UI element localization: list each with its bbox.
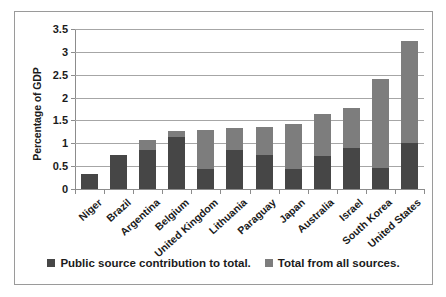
y-tick-label: 0.5	[53, 160, 68, 172]
legend-label: Total from all sources.	[278, 257, 400, 269]
y-axis-title: Percentage of GDP	[31, 54, 43, 174]
bar-group[interactable]	[197, 29, 214, 189]
bar-group[interactable]	[285, 29, 302, 189]
y-tick-mark	[71, 143, 75, 144]
plot-area: 00.511.522.533.5	[75, 29, 424, 189]
bar-segment-public[interactable]	[343, 148, 360, 189]
bar-group[interactable]	[372, 29, 389, 189]
y-tick-label: 0	[62, 183, 68, 195]
x-tick-mark	[250, 189, 251, 194]
bar-group[interactable]	[139, 29, 156, 189]
bar-group[interactable]	[314, 29, 331, 189]
bar-group[interactable]	[226, 29, 243, 189]
y-tick-mark	[71, 120, 75, 121]
bar-segment-public[interactable]	[110, 155, 127, 189]
bar-segment-public[interactable]	[226, 150, 243, 189]
y-tick-mark	[71, 52, 75, 53]
bar-segment-public[interactable]	[314, 156, 331, 189]
x-tick-mark	[308, 189, 309, 194]
x-tick-mark	[191, 189, 192, 194]
bar-segment-public[interactable]	[81, 174, 98, 189]
bar-group[interactable]	[401, 29, 418, 189]
y-tick-label: 3	[62, 46, 68, 58]
x-tick-mark	[395, 189, 396, 194]
bar-segment-public[interactable]	[401, 143, 418, 189]
legend-swatch-icon	[265, 259, 273, 267]
x-tick-mark	[424, 189, 425, 194]
legend-item[interactable]: Total from all sources.	[265, 257, 400, 269]
x-tick-mark	[104, 189, 105, 194]
bar-segment-public[interactable]	[197, 169, 214, 189]
y-tick-mark	[71, 98, 75, 99]
x-tick-label: Niger	[76, 196, 104, 223]
bar-segment-public[interactable]	[372, 168, 389, 189]
chart-frame: Percentage of GDP 00.511.522.533.5 Niger…	[14, 11, 433, 285]
x-tick-mark	[366, 189, 367, 194]
bar-group[interactable]	[343, 29, 360, 189]
bar-segment-public[interactable]	[168, 137, 185, 189]
y-tick-mark	[71, 166, 75, 167]
x-tick-mark	[162, 189, 163, 194]
y-tick-label: 2.5	[53, 69, 68, 81]
y-tick-label: 2	[62, 92, 68, 104]
bar-group[interactable]	[168, 29, 185, 189]
x-tick-mark	[133, 189, 134, 194]
y-axis-line	[75, 29, 76, 189]
bar-group[interactable]	[256, 29, 273, 189]
y-tick-label: 1	[62, 137, 68, 149]
x-tick-mark	[279, 189, 280, 194]
chart-figure: Percentage of GDP 00.511.522.533.5 Niger…	[0, 0, 446, 297]
bar-segment-public[interactable]	[285, 169, 302, 189]
x-tick-label: United States	[366, 196, 424, 250]
legend-item[interactable]: Public source contribution to total.	[47, 257, 250, 269]
x-tick-mark	[337, 189, 338, 194]
y-tick-mark	[71, 75, 75, 76]
bar-segment-public[interactable]	[256, 155, 273, 189]
chart-legend: Public source contribution to total.Tota…	[15, 257, 432, 269]
bar-group[interactable]	[81, 29, 98, 189]
bar-group[interactable]	[110, 29, 127, 189]
legend-swatch-icon	[47, 259, 55, 267]
y-tick-label: 3.5	[53, 23, 68, 35]
y-tick-label: 1.5	[53, 114, 68, 126]
legend-label: Public source contribution to total.	[60, 257, 250, 269]
x-tick-mark	[220, 189, 221, 194]
y-tick-mark	[71, 29, 75, 30]
bar-segment-public[interactable]	[139, 150, 156, 189]
x-tick-mark	[75, 189, 76, 194]
